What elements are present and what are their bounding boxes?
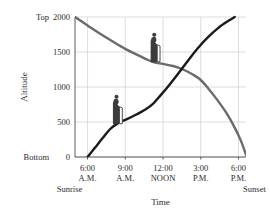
y-axis-tick-label: 1500 [53,47,70,57]
y-axis-title: Altitude [19,72,29,102]
hiker-walking-stick [120,107,123,124]
x-axis-tick-sublabel: A.M. [79,173,97,183]
labels-layer: 0500100015002000TopBottom6:00A.M.9:00A.M… [19,12,266,207]
hiker-head [152,33,156,37]
hiker-figure-icon [151,33,160,62]
hiker-body [113,99,120,125]
hiker-head [115,95,119,99]
x-axis-tick-label: 9:00 [118,163,133,173]
x-axis-title: Time [151,197,170,207]
hiker-walking-stick [157,45,160,62]
hiker-body [151,37,158,63]
altitude-time-chart: 0500100015002000TopBottom6:00A.M.9:00A.M… [0,0,270,223]
x-axis-tick-label: 12:00 [153,163,172,173]
x-axis-tick-sublabel: P.M. [231,173,247,183]
x-axis-tick-sublabel: P.M. [193,173,209,183]
axis-lines [75,17,246,160]
annotation-sunrise: Sunrise [57,184,83,194]
y-axis-tick-label: 1000 [53,82,70,92]
x-axis-tick-label: 6:00 [80,163,95,173]
x-axis-tick-label: 6:00 [231,163,246,173]
y-axis-top-label: Top [36,12,49,22]
x-axis-tick-label: 3:00 [193,163,208,173]
y-axis-tick-label: 500 [57,117,70,127]
y-axis-tick-label: 0 [66,152,70,162]
gridlines [75,17,246,157]
series-line-descending-hiker [75,17,246,155]
x-axis-tick-sublabel: A.M. [116,173,134,183]
x-axis-tick-sublabel: NOON [151,173,176,183]
hiker-figure-icon [113,95,122,124]
annotation-sunset: Sunset [243,184,266,194]
chart-canvas: 0500100015002000TopBottom6:00A.M.9:00A.M… [0,0,270,223]
y-axis-tick-label: 2000 [53,12,70,22]
y-axis-bottom-label: Bottom [23,152,49,162]
